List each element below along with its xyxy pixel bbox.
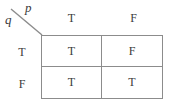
table-cell-r0c0: T	[42, 36, 102, 67]
table-grid: T F T T	[41, 35, 163, 99]
table-cell-r1c1: T	[102, 67, 162, 98]
column-header-false: F	[103, 12, 164, 25]
row-variable-label: q	[5, 13, 12, 26]
row-header-true: T	[8, 36, 36, 68]
table-cell-r1c0: T	[42, 67, 102, 98]
truth-table: p q T F T F T F T T	[0, 0, 169, 105]
table-cell-r0c1: F	[102, 36, 162, 67]
column-variable-label: p	[25, 1, 32, 14]
row-header-false: F	[8, 68, 36, 100]
column-header-true: T	[41, 12, 102, 25]
